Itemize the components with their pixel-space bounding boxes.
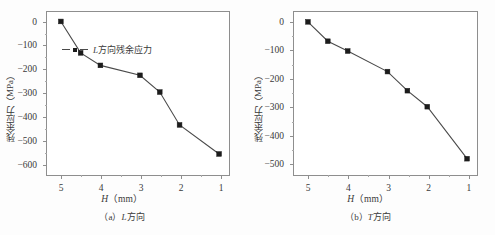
data-point-marker bbox=[465, 156, 470, 161]
y-tick-minor bbox=[45, 153, 47, 154]
y-tick-label: −100 bbox=[17, 40, 37, 50]
y-tick-mark: −600 bbox=[43, 165, 47, 166]
series-svg-b bbox=[294, 12, 477, 175]
y-tick-label: −400 bbox=[17, 112, 37, 122]
data-point-marker bbox=[345, 49, 350, 54]
caption-prefix-a: （a） bbox=[99, 212, 121, 222]
panel-caption-b: （b）T方向 bbox=[268, 210, 468, 223]
y-tick-mark: −400 bbox=[290, 136, 294, 137]
legend-dash-icon bbox=[62, 49, 70, 50]
data-point-marker bbox=[138, 73, 143, 78]
y-tick-minor bbox=[45, 57, 47, 58]
series-line bbox=[61, 21, 219, 154]
data-point-marker bbox=[405, 88, 410, 93]
caption-suffix-a: 方向 bbox=[127, 212, 145, 222]
y-tick-minor bbox=[292, 65, 294, 66]
y-tick-minor bbox=[45, 81, 47, 82]
x-tick-mark: 4 bbox=[101, 175, 102, 179]
y-tick-mark: −500 bbox=[43, 141, 47, 142]
x-tick-minor bbox=[161, 175, 162, 177]
y-tick-minor bbox=[292, 36, 294, 37]
y-tick-label: −500 bbox=[17, 136, 37, 146]
chart-panel-b: 残余应力（MPa） 0−100−200−300−400−50054321 T方向… bbox=[248, 0, 495, 235]
y-tick-label: −500 bbox=[264, 159, 284, 169]
plot-area-a: 0−100−200−300−400−500−60054321 bbox=[46, 11, 230, 176]
y-tick-mark: −300 bbox=[290, 107, 294, 108]
legend-rest-a: 方向残余应力 bbox=[98, 45, 152, 55]
x-tick-minor bbox=[449, 175, 450, 177]
y-tick-mark: −100 bbox=[43, 45, 47, 46]
x-tick-minor bbox=[368, 175, 369, 177]
plot-area-b: 0−100−200−300−400−50054321 bbox=[293, 11, 478, 176]
x-tick-minor bbox=[81, 175, 82, 177]
x-tick-mark: 4 bbox=[348, 175, 349, 179]
data-point-marker bbox=[177, 123, 182, 128]
chart-panel-a: 残余应力（MPa） 0−100−200−300−400−500−60054321… bbox=[0, 0, 247, 235]
x-tick-mark: 2 bbox=[181, 175, 182, 179]
y-tick-label: −400 bbox=[264, 131, 284, 141]
y-tick-minor bbox=[45, 129, 47, 130]
y-tick-mark: −200 bbox=[290, 79, 294, 80]
x-axis-unit-b: （mm） bbox=[354, 194, 389, 204]
data-point-marker bbox=[157, 90, 162, 95]
y-tick-mark: −400 bbox=[43, 117, 47, 118]
y-tick-minor bbox=[292, 122, 294, 123]
x-tick-mark: 1 bbox=[469, 175, 470, 179]
x-tick-minor bbox=[328, 175, 329, 177]
x-tick-minor bbox=[121, 175, 122, 177]
y-axis-title-a: 残余应力（MPa） bbox=[2, 46, 18, 166]
y-tick-mark: −200 bbox=[43, 69, 47, 70]
y-tick-mark: −500 bbox=[290, 164, 294, 165]
x-axis-title-a: H（mm） bbox=[22, 191, 222, 205]
data-point-marker bbox=[325, 39, 330, 44]
x-tick-mark: 1 bbox=[221, 175, 222, 179]
panel-caption-a: （a）L方向 bbox=[22, 210, 222, 223]
y-tick-minor bbox=[292, 93, 294, 94]
y-tick-mark: 0 bbox=[290, 22, 294, 23]
figure-container: 残余应力（MPa） 0−100−200−300−400−500−60054321… bbox=[0, 0, 495, 235]
y-tick-mark: −100 bbox=[290, 50, 294, 51]
y-tick-minor bbox=[292, 150, 294, 151]
y-tick-mark: 0 bbox=[43, 22, 47, 23]
x-tick-mark: 3 bbox=[141, 175, 142, 179]
y-tick-mark: −300 bbox=[43, 93, 47, 94]
y-tick-label: 0 bbox=[279, 17, 284, 27]
series-line bbox=[308, 22, 467, 159]
data-point-marker bbox=[98, 63, 103, 68]
data-point-marker bbox=[217, 152, 222, 157]
y-tick-label: −300 bbox=[264, 102, 284, 112]
y-tick-label: −600 bbox=[17, 160, 37, 170]
x-tick-mark: 5 bbox=[61, 175, 62, 179]
x-tick-minor bbox=[201, 175, 202, 177]
y-tick-label: −100 bbox=[264, 45, 284, 55]
caption-suffix-b: 方向 bbox=[373, 212, 391, 222]
y-tick-label: −200 bbox=[264, 74, 284, 84]
data-point-marker bbox=[306, 19, 311, 24]
x-axis-unit-a: （mm） bbox=[108, 194, 143, 204]
y-tick-label: −200 bbox=[17, 64, 37, 74]
y-tick-minor bbox=[45, 105, 47, 106]
x-tick-minor bbox=[409, 175, 410, 177]
y-tick-label: −300 bbox=[17, 88, 37, 98]
legend-label-a: L方向残余应力 bbox=[93, 43, 152, 56]
x-tick-mark: 3 bbox=[389, 175, 390, 179]
caption-prefix-b: （b） bbox=[345, 212, 368, 222]
legend-dash-icon bbox=[80, 49, 88, 50]
legend-a: L方向残余应力 bbox=[62, 43, 152, 56]
data-point-marker bbox=[425, 104, 430, 109]
series-svg-a bbox=[47, 12, 229, 175]
y-tick-minor bbox=[45, 34, 47, 35]
x-tick-mark: 2 bbox=[429, 175, 430, 179]
data-point-marker bbox=[58, 19, 63, 24]
y-tick-label: 0 bbox=[32, 17, 37, 27]
legend-square-marker-icon bbox=[73, 48, 77, 52]
x-tick-mark: 5 bbox=[308, 175, 309, 179]
data-point-marker bbox=[385, 69, 390, 74]
x-axis-title-b: H（mm） bbox=[268, 191, 468, 205]
